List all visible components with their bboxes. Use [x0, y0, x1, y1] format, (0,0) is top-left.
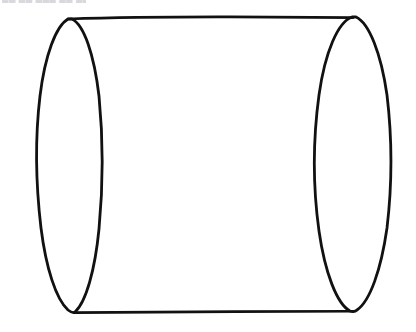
figure-page: █▄ ▄█ ▄█▄ █▄ ▄██: [0, 0, 416, 332]
bottom-side-line: [74, 311, 353, 312]
right-end-cap-ellipse: [315, 17, 391, 312]
top-side-line: [68, 17, 353, 19]
cylinder-figure: [0, 0, 416, 332]
left-end-cap-ellipse: [37, 19, 102, 313]
